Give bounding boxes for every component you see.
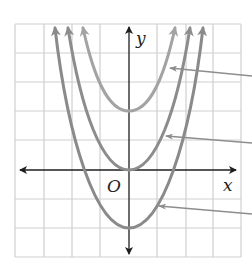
grid: [15, 24, 241, 257]
graph: y x O: [0, 0, 252, 268]
x-axis-label: x: [223, 175, 233, 195]
origin-label: O: [107, 176, 121, 196]
pointer-3: [159, 206, 252, 214]
y-axis-label: y: [135, 28, 146, 48]
